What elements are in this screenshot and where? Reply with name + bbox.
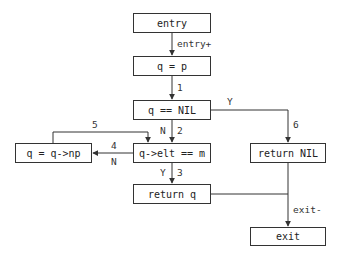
edge-label-4: 4 xyxy=(111,141,117,151)
edge-label-exit-minus: exit- xyxy=(293,205,322,215)
edge-label-1: 1 xyxy=(177,83,183,93)
node-test-elt: q->elt == m xyxy=(133,143,211,163)
node-return-q: return q xyxy=(133,184,211,204)
edge-label-6-branch: Y xyxy=(227,97,233,107)
edge-label-3-branch: Y xyxy=(160,168,166,178)
edge-label-6: 6 xyxy=(293,120,299,130)
edge-5 xyxy=(53,132,148,143)
edge-label-2-branch: N xyxy=(160,126,166,136)
node-entry: entry xyxy=(133,13,211,33)
edge-label-entry-plus: entry+ xyxy=(177,39,211,49)
edges-layer xyxy=(0,0,341,261)
node-assign-q: q = p xyxy=(133,56,211,76)
node-test-nil: q == NIL xyxy=(133,100,211,120)
edge-label-5: 5 xyxy=(92,120,98,130)
control-flow-diagram: entry q = p q == NIL q->elt == m q = q->… xyxy=(0,0,341,261)
edge-label-3: 3 xyxy=(177,168,183,178)
node-return-nil: return NIL xyxy=(250,143,326,163)
edge-6 xyxy=(211,110,288,142)
edge-label-4-branch: N xyxy=(111,157,117,167)
edge-label-2: 2 xyxy=(177,126,183,136)
node-exit: exit xyxy=(250,227,326,246)
node-advance: q = q->np xyxy=(15,143,92,163)
